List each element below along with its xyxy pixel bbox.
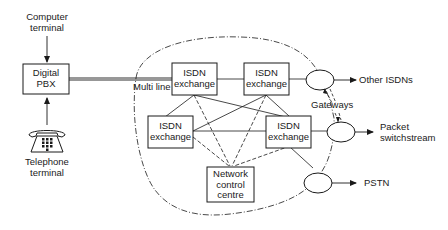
computer-terminal-line1: Computer: [20, 12, 74, 23]
packet-switchstream-label: Packet switchstream: [380, 122, 435, 143]
other-isdns-label: Other ISDNs: [359, 75, 413, 86]
isdn-exchange-3-line1: ISDN: [148, 121, 193, 132]
isdn-exchange-2-label: ISDN exchange: [244, 68, 289, 89]
gateway-2-ellipse: [327, 122, 355, 142]
ncc-line3: centre: [207, 190, 254, 201]
isdn-exchange-4-label: ISDN exchange: [266, 121, 311, 142]
digital-pbx-label: Digital PBX: [23, 68, 69, 89]
gateways-label: Gateways: [311, 100, 353, 111]
pstn-label: PSTN: [364, 178, 389, 189]
digital-pbx-line2: PBX: [23, 79, 69, 90]
computer-terminal-line2: terminal: [20, 23, 74, 34]
isdn-exchange-1-line1: ISDN: [172, 68, 217, 79]
packet-switchstream-line1: Packet: [380, 122, 435, 133]
isdn-exchange-2-line1: ISDN: [244, 68, 289, 79]
isdn-network-diagram: Computer terminal Digital PBX Telephone …: [0, 0, 448, 230]
telephone-terminal-line2: terminal: [17, 168, 77, 179]
digital-pbx-line1: Digital: [23, 68, 69, 79]
telephone-icon: [29, 131, 65, 153]
isdn-exchange-4-line2: exchange: [266, 132, 311, 143]
isdn-exchange-2-line2: exchange: [244, 79, 289, 90]
isdn-exchange-3-label: ISDN exchange: [148, 121, 193, 142]
gateway-1-ellipse: [306, 70, 334, 90]
isdn-exchange-3-line2: exchange: [148, 132, 193, 143]
telephone-terminal-label: Telephone terminal: [17, 157, 77, 178]
ncc-line1: Network: [207, 169, 254, 180]
computer-terminal-label: Computer terminal: [20, 12, 74, 33]
isdn-exchange-4-line1: ISDN: [266, 121, 311, 132]
isdn-exchange-1-label: ISDN exchange: [172, 68, 217, 89]
packet-switchstream-line2: switchstream: [380, 133, 435, 144]
gateway-3-ellipse: [304, 173, 332, 193]
multi-line-label: Multi line: [133, 82, 171, 93]
isdn-exchange-1-line2: exchange: [172, 79, 217, 90]
telephone-terminal-line1: Telephone: [17, 157, 77, 168]
network-control-centre-label: Network control centre: [207, 169, 254, 201]
